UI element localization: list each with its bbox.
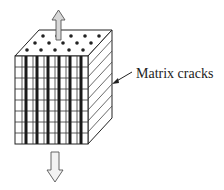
matrix-cracks-label: Matrix cracks — [136, 66, 213, 82]
annotation-arrowhead-icon — [112, 78, 119, 84]
laminate-diagram — [0, 0, 224, 190]
tension-arrow-down-icon — [47, 152, 63, 182]
